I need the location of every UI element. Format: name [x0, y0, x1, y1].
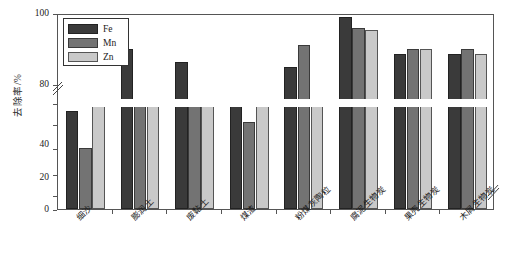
bar-mn-3: [243, 122, 256, 209]
bar-fe-4: [284, 105, 297, 209]
bar-upper-mn-4: [298, 45, 311, 101]
bar-mn-6: [407, 105, 420, 209]
bar-zn-2: [201, 105, 214, 209]
bar-upper-mn-7: [461, 49, 474, 101]
y-tick-mark-3: [53, 125, 57, 126]
bar-fe-5: [339, 105, 352, 209]
legend-swatch-zn: [68, 52, 98, 62]
legend-swatch-fe: [68, 24, 98, 34]
bar-upper-zn-7: [475, 54, 488, 101]
y-tick-mark-6: [53, 196, 57, 197]
bar-upper-zn-6: [420, 49, 433, 101]
bar-zn-3: [256, 105, 269, 209]
x-tick-2: [221, 210, 222, 214]
legend-label-mn: Mn: [103, 38, 116, 48]
bar-fe-1: [121, 105, 134, 209]
right-axis-break-icon: [486, 185, 502, 203]
bar-upper-fe-6: [394, 54, 407, 101]
legend-item-mn: Mn: [68, 36, 124, 50]
legend-label-fe: Fe: [103, 24, 113, 34]
chart-root: 去除率/% 100 80 40 20 0 Fe Mn Zn: [0, 0, 520, 275]
y-axis-break-icon: [51, 82, 65, 98]
bar-upper-fe-2: [175, 62, 188, 101]
legend-item-fe: Fe: [68, 22, 124, 36]
y-tick-label-80: 80: [40, 80, 50, 90]
bar-fe-7: [448, 105, 461, 209]
bar-upper-mn-5: [352, 28, 365, 101]
y-tick-label-100: 100: [35, 9, 49, 19]
bar-mn-7: [461, 105, 474, 209]
y-tick-label-20: 20: [40, 173, 50, 183]
bar-upper-fe-7: [448, 54, 461, 101]
bar-fe-3: [230, 105, 243, 209]
x-tick-5: [385, 210, 386, 214]
axis-break-band: [59, 99, 492, 107]
bar-mn-5: [352, 105, 365, 209]
y-tick-mark-7: [53, 210, 57, 211]
bar-upper-zn-5: [365, 30, 378, 101]
legend-swatch-mn: [68, 38, 98, 48]
bar-fe-0: [66, 111, 79, 209]
bar-zn-1: [147, 105, 160, 209]
x-tick-4: [330, 210, 331, 214]
y-tick-mark-5: [53, 175, 57, 176]
x-tick-0: [112, 210, 113, 214]
y-axis-tick-labels: 100 80 40 20 0: [0, 0, 55, 210]
legend-label-zn: Zn: [103, 52, 114, 62]
y-tick-mark-0: [53, 14, 57, 15]
y-tick-mark-4: [53, 149, 57, 150]
bar-mn-4: [298, 105, 311, 209]
bar-upper-mn-6: [407, 49, 420, 101]
bar-zn-0: [92, 106, 105, 209]
bar-mn-1: [134, 105, 147, 209]
bar-upper-fe-4: [284, 67, 297, 101]
bar-fe-6: [394, 105, 407, 209]
x-tick-1: [166, 210, 167, 214]
bar-fe-2: [175, 105, 188, 209]
y-tick-label-0: 0: [44, 205, 49, 215]
bar-upper-fe-5: [339, 17, 352, 101]
x-tick-6: [439, 210, 440, 214]
x-tick-3: [276, 210, 277, 214]
y-tick-label-40: 40: [40, 140, 50, 150]
legend: Fe Mn Zn: [63, 18, 129, 66]
legend-item-zn: Zn: [68, 50, 124, 64]
bar-mn-2: [188, 105, 201, 209]
y-tick-mark-2: [53, 104, 57, 105]
